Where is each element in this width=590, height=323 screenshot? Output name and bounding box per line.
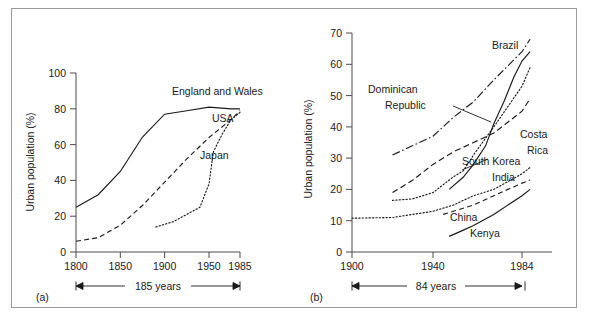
series-line-china — [443, 180, 530, 214]
panel-a-label: (a) — [36, 291, 49, 303]
panel-a-ytick-100: 100 — [48, 67, 66, 79]
panel-a-ylabel: Urban population (%) — [24, 112, 36, 211]
panel-a-span-label: 185 years — [135, 280, 181, 292]
panel-b-xtick-1940: 1940 — [421, 260, 445, 272]
panel-a-ytick-80: 80 — [54, 103, 66, 115]
series-line-south-korea — [449, 52, 530, 190]
series-label-republic: Republic — [385, 99, 426, 111]
panel-a-xticks — [76, 252, 240, 258]
panel-a: 0 20 40 60 80 100 Urban population (%) 1… — [12, 9, 302, 309]
series-label-usa: USA — [212, 112, 234, 124]
panel-a-ytick-0: 0 — [60, 246, 66, 258]
panel-b-label: (b) — [310, 291, 323, 303]
panel-b-ytick-70: 70 — [330, 27, 342, 39]
panel-a-ytick-60: 60 — [54, 139, 66, 151]
panel-b-xtick-1900: 1900 — [340, 260, 364, 272]
series-label-brazil: Brazil — [492, 39, 518, 51]
panel-a-yticks — [70, 73, 76, 252]
panel-b-xticks — [352, 252, 522, 258]
panel-b-ytick-40: 40 — [330, 121, 342, 133]
series-line-usa — [76, 111, 240, 242]
series-label-south-korea: South Korea — [462, 155, 521, 167]
panel-b-ylabel: Urban population (%) — [302, 99, 314, 198]
panel-b-plot: 0 10 20 30 40 50 60 70 Urban population … — [302, 9, 578, 309]
panel-b-ytick-60: 60 — [330, 58, 342, 70]
panel-a-axes — [76, 73, 240, 252]
panel-b: 0 10 20 30 40 50 60 70 Urban population … — [302, 9, 578, 309]
panel-a-xtick-1900: 1900 — [153, 260, 177, 272]
series-label-rica: Rica — [527, 144, 548, 156]
series-label-costa: Costa — [520, 128, 548, 140]
panel-b-span-label: 84 years — [416, 280, 456, 292]
panel-a-xtick-1850: 1850 — [109, 260, 133, 272]
panel-b-ytick-50: 50 — [330, 90, 342, 102]
series-label-dominican: Dominican — [368, 83, 418, 95]
panel-a-ytick-20: 20 — [54, 210, 66, 222]
series-label-england-and-wales: England and Wales — [172, 85, 263, 97]
figure-urban-population: 0 20 40 60 80 100 Urban population (%) 1… — [0, 0, 590, 323]
panel-a-xtick-1800: 1800 — [64, 260, 88, 272]
panel-a-xtick-1950: 1950 — [197, 260, 221, 272]
panel-a-xtick-1985: 1985 — [228, 260, 252, 272]
series-label-india: India — [492, 171, 515, 183]
series-label-china: China — [450, 211, 478, 223]
series-label-kenya: Kenya — [470, 227, 500, 239]
panel-b-ytick-20: 20 — [330, 183, 342, 195]
series-line-japan — [156, 112, 240, 227]
series-line-dominican-republic — [393, 39, 531, 155]
figure-frame: 0 20 40 60 80 100 Urban population (%) 1… — [11, 8, 577, 308]
panel-a-ytick-40: 40 — [54, 174, 66, 186]
series-label-japan: Japan — [200, 149, 229, 161]
panel-a-plot: 0 20 40 60 80 100 Urban population (%) 1… — [12, 9, 302, 309]
panel-b-ytick-10: 10 — [330, 215, 342, 227]
panel-b-xtick-1984: 1984 — [510, 260, 534, 272]
panel-b-yticks — [346, 33, 352, 252]
panel-b-ytick-30: 30 — [330, 152, 342, 164]
leader-line-dominican-republic — [453, 106, 491, 122]
panel-b-ytick-0: 0 — [336, 246, 342, 258]
